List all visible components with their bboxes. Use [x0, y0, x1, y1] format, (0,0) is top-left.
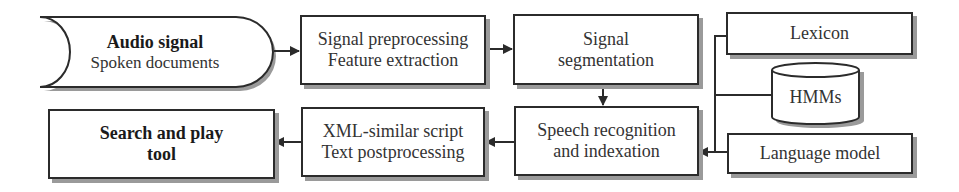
- postprocessing-line2: Text postprocessing: [321, 142, 464, 163]
- search-line2: tool: [147, 144, 176, 165]
- recognition-line1: Speech recognition: [537, 120, 675, 141]
- node-language-model: Language model: [727, 133, 913, 174]
- node-lexicon: Lexicon: [726, 12, 913, 55]
- hmms-label: HMMs: [789, 87, 841, 108]
- node-speech-recognition: Speech recognition and indexation: [514, 106, 699, 176]
- language-model-label: Language model: [760, 143, 880, 164]
- audio-signal-subtitle: Spoken documents: [91, 53, 220, 73]
- node-audio-signal: Audio signal Spoken documents: [60, 17, 250, 87]
- node-text-postprocessing: XML-similar script Text postprocessing: [301, 107, 485, 177]
- segmentation-line1: Signal: [583, 29, 629, 50]
- preprocessing-line1: Signal preprocessing: [318, 29, 468, 50]
- node-signal-segmentation: Signal segmentation: [513, 14, 699, 85]
- search-line1: Search and play: [100, 123, 224, 144]
- node-search-and-play-tool: Search and play tool: [48, 109, 275, 179]
- audio-signal-title: Audio signal: [107, 32, 204, 53]
- postprocessing-line1: XML-similar script: [323, 121, 463, 142]
- node-hmms: HMMs: [772, 76, 859, 118]
- lexicon-label: Lexicon: [790, 23, 849, 44]
- segmentation-line2: segmentation: [558, 50, 654, 71]
- recognition-line2: and indexation: [553, 141, 659, 162]
- preprocessing-line2: Feature extraction: [328, 50, 458, 71]
- node-signal-preprocessing: Signal preprocessing Feature extraction: [300, 15, 486, 85]
